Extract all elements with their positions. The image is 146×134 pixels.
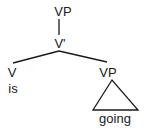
edge-vbar-v [13,51,59,63]
edge-vbar-vp [59,51,107,62]
node-vp-complement: VP [99,65,116,80]
word-is: is [8,81,18,96]
triangle-abbreviation-icon [93,80,138,110]
node-vbar: V' [54,36,65,51]
node-vp-root: VP [54,4,71,19]
syntax-tree: VP V' V is VP going [0,0,146,134]
word-going: going [99,111,131,126]
node-v: V [8,65,17,80]
